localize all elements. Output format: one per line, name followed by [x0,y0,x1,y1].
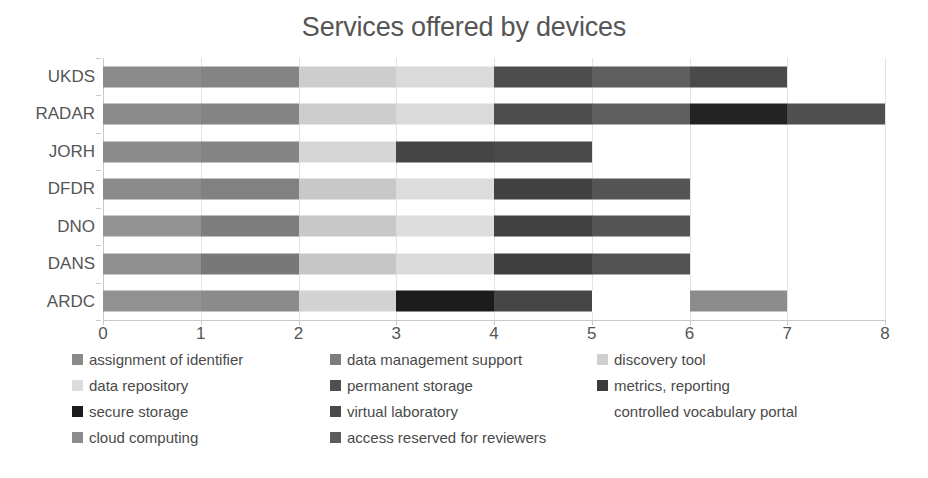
bar-segment[interactable] [396,216,494,237]
bar-segment[interactable] [494,291,592,312]
legend-swatch-icon [330,432,341,443]
bar-segment[interactable] [201,141,299,162]
legend-label: cloud computing [89,430,198,445]
legend-item[interactable]: controlled vocabulary portal [597,404,797,419]
bar-segment[interactable] [299,216,397,237]
bar-stack [103,216,885,237]
bar-segment[interactable] [299,141,397,162]
bar-segment[interactable] [201,291,299,312]
legend-swatch-icon [330,380,341,391]
bar-segment[interactable] [201,216,299,237]
legend-item[interactable]: cloud computing [72,430,198,445]
bar-segment[interactable] [201,253,299,274]
bar-segment[interactable] [494,141,592,162]
bar-segment[interactable] [787,104,885,125]
legend-item[interactable]: discovery tool [597,352,706,367]
bar-segment[interactable] [103,216,201,237]
legend-item[interactable]: virtual laboratory [330,404,458,419]
bar-segment[interactable] [103,178,201,199]
plot-area [103,58,885,320]
legend-label: access reserved for reviewers [347,430,546,445]
bar-segment[interactable] [396,291,494,312]
bar-segment[interactable] [396,141,494,162]
bar-segment[interactable] [299,253,397,274]
bar-row [103,170,885,207]
bar-segment[interactable] [103,66,201,87]
y-axis-tick-mark [96,170,101,171]
x-axis-tick-mark [299,320,300,325]
legend-swatch-icon [597,380,608,391]
bar-segment[interactable] [592,291,690,312]
bar-segment[interactable] [299,104,397,125]
bar-segment[interactable] [201,178,299,199]
bar-segment[interactable] [201,66,299,87]
bar-segment[interactable] [494,66,592,87]
bar-segment[interactable] [690,104,788,125]
bar-segment[interactable] [299,66,397,87]
bar-stack [103,178,885,199]
bar-segment[interactable] [494,178,592,199]
bar-row [103,133,885,170]
legend-swatch-icon [330,354,341,365]
x-axis-tick-label: 1 [196,324,205,344]
legend-swatch-icon [597,354,608,365]
bar-segment[interactable] [592,216,690,237]
bar-segment[interactable] [103,253,201,274]
y-axis-tick-mark [96,208,101,209]
bar-row [103,58,885,95]
legend-swatch-icon [72,380,83,391]
bar-segment[interactable] [494,104,592,125]
bar-stack [103,66,885,87]
y-axis-labels: UKDSRADARJORHDFDRDNODANSARDC [7,58,95,320]
x-axis-tick-label: 7 [783,324,792,344]
legend-item[interactable]: secure storage [72,404,188,419]
legend-label: virtual laboratory [347,404,458,419]
bar-segment[interactable] [201,104,299,125]
legend-item[interactable]: access reserved for reviewers [330,430,546,445]
bar-segment[interactable] [592,178,690,199]
bar-segment[interactable] [103,104,201,125]
x-axis-tick-label: 3 [392,324,401,344]
bar-segment[interactable] [396,104,494,125]
bar-segment[interactable] [592,104,690,125]
legend-item[interactable]: metrics, reporting [597,378,730,393]
legend-label: controlled vocabulary portal [614,404,797,419]
bar-segment[interactable] [494,253,592,274]
chart-container: Services offered by devices UKDSRADARJOR… [0,0,928,478]
bar-segment[interactable] [299,291,397,312]
legend-swatch-icon [72,406,83,417]
chart-title: Services offered by devices [0,12,928,43]
y-axis-tick-mark [96,95,101,96]
x-axis-labels: 012345678 [103,324,885,350]
legend-swatch-icon [597,406,608,417]
x-axis-tick-mark [396,320,397,325]
bar-segment[interactable] [592,66,690,87]
bar-segment[interactable] [592,253,690,274]
legend-label: assignment of identifier [89,352,243,367]
y-axis-tick-mark [96,133,101,134]
legend-item[interactable]: data repository [72,378,188,393]
legend-label: metrics, reporting [614,378,730,393]
legend-item[interactable]: permanent storage [330,378,473,393]
bar-segment[interactable] [396,253,494,274]
legend-item[interactable]: assignment of identifier [72,352,243,367]
y-axis-tick-label: DANS [7,245,95,282]
bar-segment[interactable] [103,291,201,312]
legend-swatch-icon [72,432,83,443]
legend-item[interactable]: data management support [330,352,522,367]
bar-segment[interactable] [299,178,397,199]
bar-segment[interactable] [396,178,494,199]
chart-legend: assignment of identifierdata management … [72,352,912,462]
bar-stack [103,104,885,125]
bar-segment[interactable] [396,66,494,87]
bar-segment[interactable] [494,216,592,237]
y-axis-tick-mark [96,58,101,59]
bar-segment[interactable] [103,141,201,162]
x-axis-tick-mark [201,320,202,325]
legend-swatch-icon [330,406,341,417]
bar-segment[interactable] [690,66,788,87]
y-axis-tick-label: DNO [7,208,95,245]
bar-stack [103,141,885,162]
bar-segment[interactable] [690,291,788,312]
legend-label: data management support [347,352,522,367]
